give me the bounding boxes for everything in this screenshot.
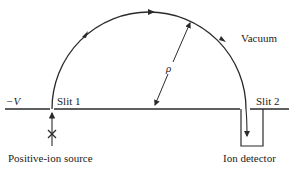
voltage-label: −V bbox=[6, 95, 21, 107]
source-label: Positive-ion source bbox=[8, 152, 93, 164]
ion-detector-box bbox=[241, 109, 263, 146]
vacuum-label: Vacuum bbox=[241, 32, 277, 44]
radius-line bbox=[173, 23, 190, 62]
detector-label: Ion detector bbox=[223, 152, 276, 164]
trajectory-arrow-icon bbox=[219, 36, 226, 42]
ion-trajectory bbox=[52, 12, 246, 109]
slit1-label: Slit 1 bbox=[57, 95, 81, 107]
radius-line bbox=[155, 74, 168, 105]
ion-trajectory-into-detector bbox=[246, 109, 247, 136]
mass-spectrometer-diagram: −V Slit 1 Slit 2 Vacuum ρ Positive-ion s… bbox=[0, 0, 289, 169]
slit2-label: Slit 2 bbox=[256, 95, 280, 107]
radius-label: ρ bbox=[165, 62, 171, 74]
trajectory-arrow-icon bbox=[148, 9, 155, 15]
